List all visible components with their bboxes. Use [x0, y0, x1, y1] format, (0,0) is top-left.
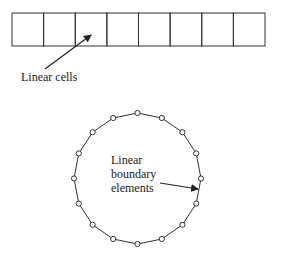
diagram-canvas [0, 0, 282, 265]
linear-cell [12, 13, 44, 46]
boundary-label-line-2: boundary [111, 167, 156, 181]
boundary-node [111, 236, 116, 241]
boundary-node [180, 222, 185, 227]
boundary-node [135, 241, 140, 246]
boundary-node [159, 115, 164, 120]
boundary-label-line-3: elements [111, 181, 156, 195]
boundary-label-line-1: Linear [111, 153, 156, 167]
linear-cells-arrow [45, 35, 91, 69]
boundary-node [90, 130, 95, 135]
linear-cells-label: Linear cells [21, 70, 77, 84]
boundary-node [135, 110, 140, 115]
boundary-elements-label: Linear boundary elements [111, 153, 156, 195]
linear-cell [139, 13, 171, 46]
boundary-node [194, 201, 199, 206]
boundary-node [76, 151, 81, 156]
boundary-node [76, 201, 81, 206]
boundary-node [111, 115, 116, 120]
boundary-node [180, 130, 185, 135]
boundary-elements-arrow [160, 183, 198, 189]
boundary-node [194, 151, 199, 156]
boundary-node [90, 222, 95, 227]
linear-cell [170, 13, 202, 46]
boundary-node [159, 236, 164, 241]
linear-cell [44, 13, 76, 46]
linear-cell [233, 13, 265, 46]
linear-cells-grid [12, 13, 265, 46]
boundary-node [71, 176, 76, 181]
linear-cell [202, 13, 234, 46]
boundary-node [198, 176, 203, 181]
linear-cell [107, 13, 139, 46]
linear-cell [75, 13, 107, 46]
